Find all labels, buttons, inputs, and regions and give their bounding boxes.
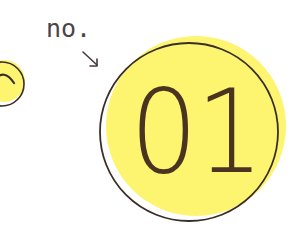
badge-number: 01 [122,72,269,192]
partial-circle-badge-icon [0,60,25,106]
number-prefix-label: no. [46,14,91,44]
number-badge-graphic: no. 01 [0,0,290,242]
arrow-down-right-icon [83,52,97,66]
